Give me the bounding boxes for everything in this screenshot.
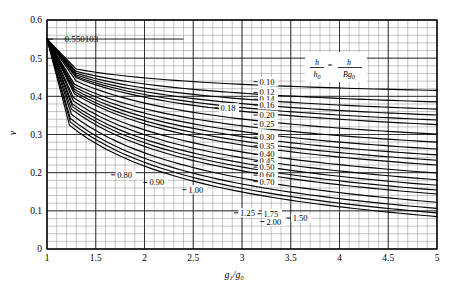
legend: hh0=hBg0 [305, 52, 367, 82]
chart-figure: 11.522.533.544.5500.10.20.30.40.50.6g1/g… [0, 0, 454, 292]
y-tick-label: 0.3 [30, 130, 42, 140]
curve-label-0p10: 0.10 [260, 77, 275, 87]
y-tick-label: 0.1 [30, 206, 42, 216]
y-tick-label: 0.2 [30, 168, 42, 178]
curve-label-1p50: 1.50 [293, 213, 308, 223]
x-tick-label: 5 [435, 253, 440, 263]
curve-label-0p90: 0.90 [149, 177, 164, 187]
x-tick-label: 4 [337, 253, 342, 263]
legend-numerator-h-right: h [347, 58, 351, 67]
curve-label-0p18: 0.18 [221, 103, 236, 113]
x-axis-title: g1/g0 [225, 269, 244, 281]
y-tick-labels: 00.10.20.30.40.50.6 [30, 15, 42, 254]
x-tick-label: 3 [240, 253, 245, 263]
curve-label-0p70: 0.70 [260, 177, 275, 187]
y-tick-label: 0.5 [30, 54, 42, 64]
annotation-value-label: 0.550103 [65, 34, 99, 44]
chart-svg: 11.522.533.544.5500.10.20.30.40.50.6g1/g… [0, 0, 454, 292]
curve-label-0p80: 0.80 [117, 170, 132, 180]
x-tick-labels: 11.522.533.544.55 [45, 253, 440, 263]
chart-canvas: 11.522.533.544.5500.10.20.30.40.50.6g1/g… [0, 0, 454, 292]
legend-equals-sign: = [327, 61, 332, 70]
curve-label-0p16: 0.16 [260, 100, 275, 110]
x-tick-label: 2 [142, 253, 147, 263]
curve-label-1p00: 1.00 [188, 185, 203, 195]
legend-numerator-h: h [315, 58, 319, 67]
curve-label-1p25: 1.25 [240, 208, 255, 218]
x-tick-label: 1.5 [90, 253, 102, 263]
x-tick-label: 3.5 [285, 253, 297, 263]
x-tick-label: 2.5 [187, 253, 199, 263]
y-tick-label: 0 [37, 244, 42, 254]
x-tick-label: 4.5 [382, 253, 394, 263]
x-tick-label: 1 [45, 253, 50, 263]
y-axis-title: v [7, 130, 18, 135]
y-tick-label: 0.4 [30, 92, 42, 102]
curve-label-0p25: 0.25 [260, 119, 275, 129]
y-tick-label: 0.6 [30, 15, 42, 25]
curve-label-2p00: 2.00 [266, 217, 281, 227]
